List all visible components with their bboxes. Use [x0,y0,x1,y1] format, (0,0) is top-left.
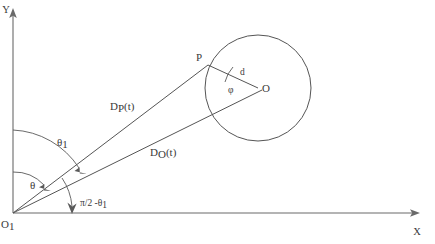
angle-theta1-label: θ1 [57,136,68,150]
angle-phi-label: φ [228,85,234,95]
angle-arc-complement [62,178,72,206]
segment-dp-label: DP(t) [110,100,135,114]
segment-do [13,90,262,213]
angle-arc-theta [13,172,44,185]
y-axis-label: Y [2,4,10,15]
angle-theta-label: θ [30,179,35,191]
angle-arc-theta1 [13,130,79,168]
segment-do-label: DO(t) [150,146,177,160]
segment-dp [13,65,208,213]
radius-d-label: d [240,67,245,77]
angle-complement-label: π/2 -θ1 [80,198,107,210]
figure-container: Y X O1 P O d φ DP(t) DO(t) θ1 θ π/2 -θ1 [0,0,435,244]
angle-arc-theta1-arrowhead [75,167,88,174]
geometry-diagram: Y X O1 P O d φ DP(t) DO(t) θ1 θ π/2 -θ1 [0,0,435,244]
point-p-label: P [196,51,202,63]
x-axis-label: X [413,226,421,237]
point-o-label: O [262,82,270,94]
origin-label: O1 [1,218,14,232]
